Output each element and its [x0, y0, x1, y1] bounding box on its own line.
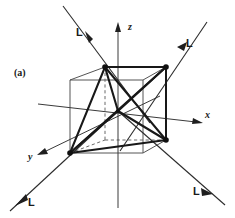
axis-label-x: x — [205, 110, 210, 120]
ligand-label-top-left: L — [76, 27, 83, 38]
axis-arrow-z — [115, 22, 121, 32]
ligand-label-top-right: L — [186, 38, 193, 49]
ligand-vertex-top-back-left — [102, 64, 108, 70]
figure-container: (a) x y z L L L L — [0, 0, 235, 218]
ligand-vertex-bottom-front-left — [67, 150, 73, 156]
ligand-line-top-right — [120, 22, 207, 151]
ligand-vertex-back-right — [163, 64, 169, 70]
ligand-arrow-bottom-left — [15, 194, 28, 206]
ligand-vertex-bottom-right — [163, 137, 169, 143]
axis-arrow-y — [37, 148, 48, 155]
panel-label: (a) — [14, 68, 26, 78]
axis-label-y: y — [28, 152, 32, 162]
axis-label-z: z — [128, 22, 132, 32]
tet-edge-3 — [105, 67, 166, 140]
ligand-label-bottom-right: L — [193, 186, 200, 197]
ligand-line-bottom-right — [118, 111, 225, 205]
axis-arrow-x — [192, 118, 203, 124]
metal-center-dot — [116, 109, 120, 113]
axis-group — [37, 22, 203, 208]
ligand-label-bottom-left: L — [28, 197, 35, 208]
